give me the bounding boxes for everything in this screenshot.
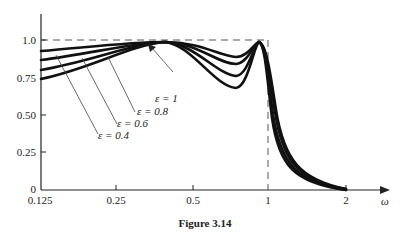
x-tick-label: 0.25 [106,194,126,206]
x-tick-label: 1 [265,194,271,206]
annotation-eps-1: ε = 1 [155,92,178,104]
curve-eps-0.4 [41,42,346,189]
annotation-eps-0.6: ε = 0.6 [117,117,149,129]
y-tick-label: 1.0 [22,34,36,46]
figure-caption: Figure 3.14 [179,217,232,229]
y-tick-label: 0.50 [17,109,37,121]
x-tick-label: 0.5 [186,194,200,206]
annotation-leaders [56,48,173,134]
y-tick-label: 0.75 [17,72,37,84]
y-tick-label: 0.25 [17,146,37,158]
x-axis-arrow-icon [380,186,390,194]
x-axis-label: ω [381,195,389,207]
x-tick-label: 0.125 [28,194,53,206]
annotation-eps-0.4: ε = 0.4 [98,129,130,141]
y-ticks: 1.0 0.75 0.50 0.25 0 [17,34,46,195]
annotation-eps-0.8: ε = 0.8 [137,105,169,117]
curves [41,42,346,190]
x-tick-label: 2 [343,194,349,206]
chart: 1.0 0.75 0.50 0.25 0 0.125 0.25 0.5 1 2 … [0,0,404,236]
